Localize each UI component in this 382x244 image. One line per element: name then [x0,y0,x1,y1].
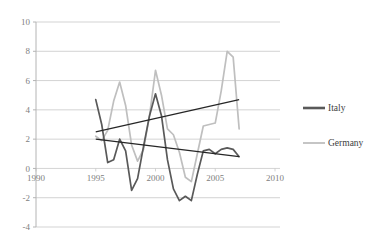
y-axis-label-6: 6 [26,76,31,86]
axis-lines-group [33,22,36,227]
chart-canvas: -4-20246810 19901995200020052010 ItalyGe… [0,0,382,244]
x-axis-labels-group: 19901995200020052010 [27,173,285,183]
y-axis-label--4: -4 [23,222,31,232]
x-axis-label-1990: 1990 [27,173,46,183]
y-axis-label-0: 0 [26,164,31,174]
x-tick-marks-group [36,168,275,171]
y-axis-labels-group: -4-20246810 [21,17,31,232]
y-axis-label-4: 4 [26,105,31,115]
legend-label-germany: Germany [328,138,364,148]
gridlines-group [36,22,280,227]
x-axis-label-1995: 1995 [87,173,106,183]
line-chart: -4-20246810 19901995200020052010 ItalyGe… [0,0,382,244]
legend-label-italy: Italy [328,103,346,113]
y-axis-label-10: 10 [21,17,31,27]
x-axis-label-2010: 2010 [266,173,285,183]
x-axis-label-2005: 2005 [206,173,225,183]
y-axis-label-8: 8 [26,46,31,56]
chart-legend: ItalyGermany [303,103,364,148]
y-axis-label--2: -2 [23,193,31,203]
x-axis-label-2000: 2000 [147,173,166,183]
y-axis-label-2: 2 [26,134,31,144]
